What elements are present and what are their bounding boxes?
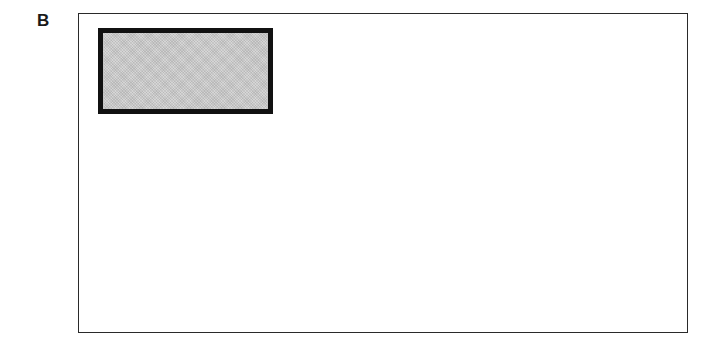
panel-label: B <box>37 11 49 31</box>
shaded-rectangle <box>98 28 273 114</box>
